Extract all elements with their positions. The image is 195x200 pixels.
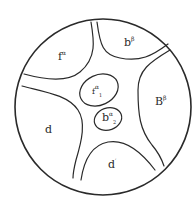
label-left: d	[45, 124, 52, 135]
label-top-left: fα	[58, 50, 66, 62]
label-inner-lower: bα2	[102, 111, 116, 125]
label-inner-upper: fα1	[92, 84, 102, 98]
label-right: Bβ	[155, 95, 167, 107]
boundary-bottom	[81, 142, 155, 180]
boundary-left	[22, 86, 82, 178]
outer-circle	[15, 19, 191, 195]
label-top-right: bβ	[124, 36, 135, 48]
boundary-right	[138, 50, 170, 166]
label-bottom: d′	[108, 158, 116, 170]
